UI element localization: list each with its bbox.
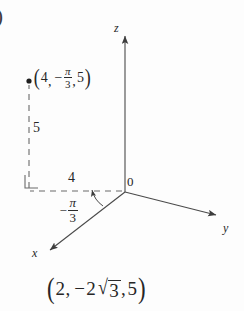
point-open-paren: ( xyxy=(34,71,40,85)
angle-value-label: − π 3 xyxy=(58,196,78,224)
point-theta-fraction: π 3 xyxy=(64,66,72,90)
radius-label: 4 xyxy=(68,171,75,185)
y-axis-line xyxy=(125,192,216,215)
height-label: 5 xyxy=(33,121,40,135)
point-minus-sign: − xyxy=(55,71,63,85)
point-close-paren: ) xyxy=(85,71,91,85)
angle-minus-sign: − xyxy=(60,204,67,217)
point-theta-numerator: π xyxy=(64,66,72,77)
caption-z-value: 5 xyxy=(128,279,138,298)
origin-label: 0 xyxy=(127,175,134,188)
x-axis-label: x xyxy=(32,247,37,259)
caption-close-paren: ) xyxy=(138,279,146,299)
enumerator-paren: ) xyxy=(0,6,3,27)
radical-sign: √ xyxy=(98,278,108,298)
right-angle-marker xyxy=(25,175,38,188)
angle-denominator: 3 xyxy=(68,211,78,225)
point-z-value: 5 xyxy=(77,71,84,85)
rectangular-coordinates-caption: ( 2 , − 2 √ 3 , 5 ) xyxy=(46,278,147,301)
plotted-point-dot xyxy=(26,78,31,83)
point-coordinates-label: ( 4 , − π 3 , 5 ) xyxy=(33,66,92,90)
caption-open-paren: ( xyxy=(47,279,55,299)
angle-numerator: π xyxy=(68,196,78,210)
angle-fraction: π 3 xyxy=(68,196,78,224)
radicand: 3 xyxy=(108,280,120,300)
point-r-value: 4 xyxy=(41,71,48,85)
z-axis-label: z xyxy=(114,22,119,34)
caption-minus-sign: − xyxy=(74,279,85,298)
point-theta-denominator: 3 xyxy=(64,78,72,89)
caption-square-root: √ 3 xyxy=(97,278,121,300)
caption-comma-1: , xyxy=(65,279,70,300)
point-comma-1: , xyxy=(48,75,52,90)
theta-angle-arc xyxy=(92,190,103,206)
caption-comma-2: , xyxy=(121,279,126,300)
y-axis-label: y xyxy=(223,222,228,234)
figure-canvas: ) z y x 0 5 4 ( 4 , − π 3 , 5 ) − π xyxy=(0,0,244,311)
caption-coefficient: 2 xyxy=(86,279,96,298)
point-comma-2: , xyxy=(72,75,76,90)
caption-x-value: 2 xyxy=(56,279,66,298)
coordinate-diagram xyxy=(0,0,244,311)
